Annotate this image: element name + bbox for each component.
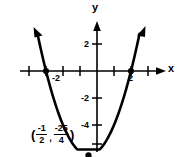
vertex-x-numerator: -1 xyxy=(37,124,47,133)
vertex-y-denominator: 4 xyxy=(58,136,65,145)
parabola-graph-figure: y x -2 2 2 -2 -4 ( -1 2 , -25 4 ) xyxy=(0,0,181,157)
x-axis-label: x xyxy=(168,63,174,74)
vertex-y-fraction: -25 4 xyxy=(54,124,69,145)
y-tick-label-neg4: -4 xyxy=(81,121,89,130)
vertex-point xyxy=(85,152,91,157)
y-tick-label-pos2: 2 xyxy=(84,40,89,49)
close-paren: ) xyxy=(69,128,75,141)
x-axis xyxy=(20,67,166,75)
x-tick-label-pos2: 2 xyxy=(128,74,133,83)
x-tick-label-neg2: -2 xyxy=(52,74,60,83)
x-axis-arrowhead xyxy=(156,67,166,75)
coordinate-plane xyxy=(0,0,181,157)
y-axis-label: y xyxy=(92,2,98,13)
vertex-x-fraction: -1 2 xyxy=(36,124,47,145)
y-axis-arrowhead xyxy=(93,21,101,31)
x-intercept-left-point xyxy=(43,68,49,74)
vertex-coordinate-label: ( -1 2 , -25 4 ) xyxy=(30,124,75,145)
y-tick-label-neg2: -2 xyxy=(81,94,89,103)
parabola-right-arrowhead xyxy=(137,26,146,37)
vertex-x-denominator: 2 xyxy=(38,136,45,145)
y-axis xyxy=(93,21,101,152)
vertex-y-numerator: -25 xyxy=(54,124,69,133)
parabola-left-arrowhead xyxy=(34,27,43,38)
